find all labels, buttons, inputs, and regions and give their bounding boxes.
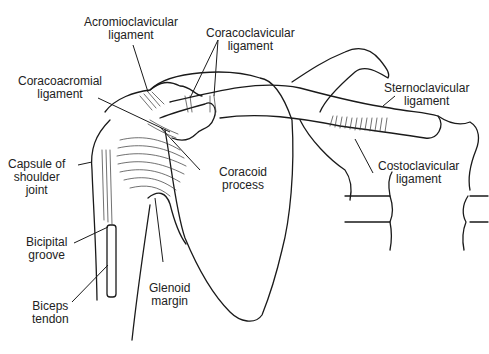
label-sternoclavicular-ligament: Sternoclavicular ligament	[384, 82, 469, 108]
rib-segment-left	[345, 196, 392, 222]
label-line: ligament	[18, 88, 102, 101]
label-coracoacromial-ligament: Coracoacromial ligament	[18, 75, 102, 101]
rib-body-outline	[300, 120, 351, 200]
label-line: ligament	[84, 29, 178, 42]
label-line: joint	[8, 184, 65, 197]
label-line: ligament	[206, 40, 295, 53]
label-glenoid-margin: Glenoid margin	[149, 282, 190, 308]
label-line: ligament	[378, 173, 459, 186]
label-acromioclavicular-ligament: Acromioclavicular ligament	[84, 16, 178, 42]
label-line: tendon	[32, 313, 69, 326]
label-biceps-tendon: Biceps tendon	[32, 300, 69, 326]
ligament-fibers	[140, 92, 387, 138]
label-coracoclavicular-ligament: Coracoclavicular ligament	[206, 27, 295, 53]
label-line: process	[219, 179, 267, 192]
rib-segment-lower	[390, 222, 392, 250]
biceps-tendon-shape	[107, 225, 116, 297]
label-bicipital-groove: Bicipital groove	[26, 236, 67, 262]
label-costoclavicular-ligament: Costoclavicular ligament	[378, 160, 459, 186]
label-line: margin	[149, 295, 190, 308]
label-line: ligament	[384, 95, 469, 108]
label-line: groove	[26, 249, 67, 262]
rib-segment-right	[463, 196, 488, 250]
label-coracoid-process: Coracoid process	[219, 166, 267, 192]
humerus-shaft-inner	[132, 205, 150, 340]
label-capsule-of-shoulder-joint: Capsule of shoulder joint	[8, 158, 65, 197]
first-rib	[292, 49, 389, 112]
